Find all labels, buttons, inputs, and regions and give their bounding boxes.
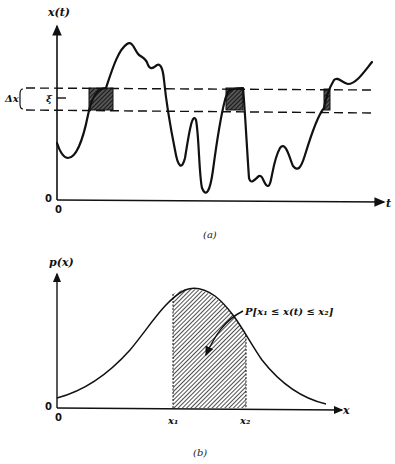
origin-x-label-b: 0: [55, 412, 62, 423]
probability-annotation: P[x₁ ≤ x(t) ≤ x₂]: [244, 306, 334, 317]
x1-label: x₁: [167, 415, 178, 426]
caption-b: (b): [193, 447, 207, 458]
x-axis-a: [57, 200, 384, 202]
xi-label: ξ: [46, 93, 53, 104]
figure-canvas: x(t) t 0 0 Δx ξ (a) p(x) x 0 0 x₁ x₂ P[x…: [0, 0, 395, 464]
y-axis-label-a: x(t): [47, 6, 70, 19]
figure-a: x(t) t 0 0 Δx ξ (a): [4, 6, 391, 240]
x-axis-label-b: x: [342, 404, 350, 417]
origin-y-label-a: 0: [45, 193, 52, 204]
random-signal-curve: [57, 43, 372, 192]
delta-x-brace: [20, 89, 23, 109]
figure-b: p(x) x 0 0 x₁ x₂ P[x₁ ≤ x(t) ≤ x₂] (b): [45, 256, 350, 458]
x2-label: x₂: [239, 415, 251, 426]
delta-x-label: Δx: [4, 93, 20, 104]
origin-x-label-a: 0: [55, 204, 62, 215]
caption-a: (a): [203, 229, 217, 240]
y-axis-label-b: p(x): [49, 256, 74, 269]
origin-y-label-b: 0: [45, 401, 52, 412]
x-axis-b: [57, 408, 342, 410]
band-upper-dashed-line: [26, 88, 373, 90]
x-axis-label-a: t: [386, 197, 391, 210]
